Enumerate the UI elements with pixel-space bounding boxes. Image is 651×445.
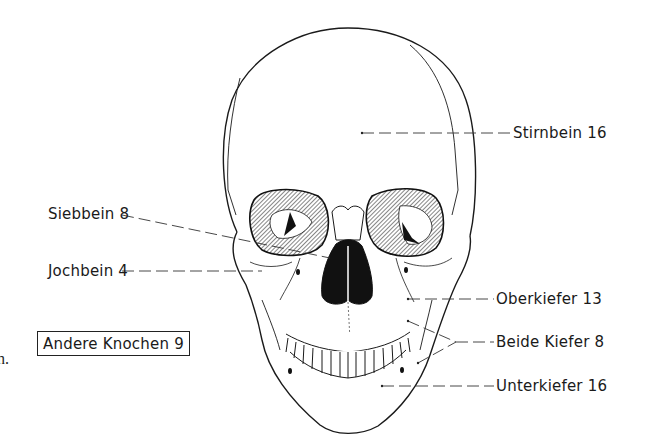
left-orbit <box>250 190 329 256</box>
label-oberkiefer: Oberkiefer 13 <box>496 290 602 308</box>
label-stirnbein: Stirnbein 16 <box>513 124 607 142</box>
label-andere-knochen: Andere Knochen 9 <box>37 331 190 356</box>
teeth <box>286 332 410 378</box>
nasal-cavity <box>322 240 373 304</box>
label-jochbein: Jochbein 4 <box>48 262 128 280</box>
label-unterkiefer: Unterkiefer 16 <box>496 377 607 395</box>
right-orbit <box>366 189 443 257</box>
label-siebbein: Siebbein 8 <box>48 205 129 223</box>
label-beide-kiefer: Beide Kiefer 8 <box>496 333 604 351</box>
margin-text-fragment: n. <box>0 350 9 368</box>
